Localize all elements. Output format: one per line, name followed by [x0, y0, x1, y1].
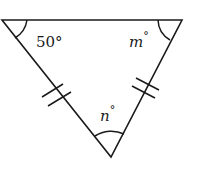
angle-arc-top-left: [15, 20, 27, 38]
tick-mark-left-2: [48, 92, 71, 106]
angle-label-n: n°: [100, 104, 115, 125]
tick-mark-right-2: [132, 86, 155, 98]
tick-mark-left-1: [42, 84, 63, 97]
angle-label-50: 50°: [36, 33, 63, 51]
angle-arc-top-right: [158, 20, 170, 40]
angle-label-m: m°: [129, 30, 149, 51]
angle-arc-bottom: [95, 131, 124, 136]
triangle-diagram: 50° m° n°: [0, 0, 204, 173]
